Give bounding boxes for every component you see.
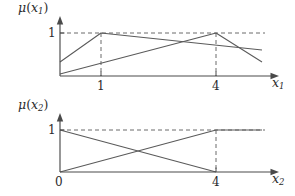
- y-tick-label-1: 1: [48, 27, 56, 39]
- y-axis-arrowhead: [57, 113, 63, 122]
- y-axis-title-mu-x2: μ(x2): [18, 99, 48, 113]
- x-tick-label-4: 4: [212, 80, 220, 92]
- x-axis-title-variable: x: [272, 75, 279, 90]
- membership-curve-b2: [60, 130, 262, 172]
- figure-root: μ(x1) 1 1 4 x1: [0, 0, 295, 196]
- y-tick-label-1: 1: [48, 124, 56, 136]
- x-tick-label-4: 4: [212, 176, 220, 188]
- x-axis-title-x2: x2: [272, 173, 284, 187]
- x-axis-title-subscript: 2: [279, 177, 284, 187]
- chart-panel-mu-x1: μ(x1) 1 1 4 x1: [0, 0, 295, 98]
- chart-panel-mu-x2: μ(x2) 1 0 4 x2: [0, 98, 295, 196]
- y-axis-title-close-paren: ): [44, 97, 49, 112]
- x-axis-title-variable: x: [272, 171, 279, 186]
- x-tick-label-1: 1: [97, 80, 105, 92]
- y-axis-arrowhead: [57, 16, 63, 25]
- y-axis-title-mu-glyph: μ: [18, 97, 26, 112]
- x-axis-title-x1: x1: [272, 77, 284, 91]
- x-axis-title-subscript: 1: [279, 81, 284, 91]
- y-axis-title-mu-x1: μ(x1): [18, 2, 48, 16]
- y-axis-title-close-paren: ): [44, 0, 49, 15]
- y-axis-title-mu-glyph: μ: [18, 0, 26, 15]
- x-tick-label-0: 0: [55, 176, 63, 188]
